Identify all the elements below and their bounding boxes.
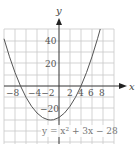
x-axis-label: x <box>129 81 135 92</box>
y-tick-20: 20 <box>45 59 57 69</box>
y-axis-label: y <box>55 5 62 16</box>
x-axis-arrow-icon <box>119 83 127 89</box>
y-tick-neg20: −20 <box>40 104 59 114</box>
parabola-chart: y x 40 20 −20 −8 −4−2 2 4 6 8 y = x² + 3… <box>0 0 137 144</box>
x-tick-2: 2 <box>67 88 73 98</box>
y-axis-arrow-icon <box>56 18 62 25</box>
x-tick-neg8: −8 <box>6 88 20 98</box>
x-tick-neg4-neg2: −4−2 <box>28 88 55 98</box>
x-tick-8: 8 <box>99 88 105 98</box>
x-tick-6: 6 <box>88 88 94 98</box>
equation-label: y = x² + 3x − 28 <box>41 126 118 136</box>
x-tick-4: 4 <box>78 88 84 98</box>
y-tick-40: 40 <box>45 36 57 46</box>
